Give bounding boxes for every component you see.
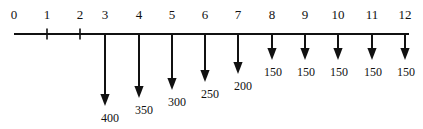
- period-label-7: 7: [235, 8, 242, 21]
- period-label-10: 10: [332, 8, 345, 21]
- period-label-11: 11: [366, 8, 379, 21]
- flow-amount-period-9: 150: [297, 66, 315, 78]
- period-label-1: 1: [44, 8, 51, 21]
- period-label-0: 0: [11, 8, 18, 21]
- flow-amount-period-12: 150: [397, 66, 415, 78]
- flow-amount-period-5: 300: [168, 96, 186, 108]
- flow-amount-period-7: 200: [234, 80, 252, 92]
- period-label-3: 3: [102, 8, 109, 21]
- flow-amount-period-11: 150: [364, 66, 382, 78]
- period-label-12: 12: [399, 8, 412, 21]
- period-label-6: 6: [202, 8, 209, 21]
- flow-amount-period-3: 400: [101, 112, 119, 124]
- flow-arrow-period-8: [267, 34, 276, 60]
- flow-amount-period-4: 350: [135, 104, 153, 116]
- flow-arrow-period-9: [300, 34, 309, 60]
- flow-arrow-period-10: [333, 34, 342, 60]
- flow-arrow-period-5: [167, 34, 176, 90]
- flow-arrow-period-4: [134, 34, 143, 98]
- flow-arrow-period-6: [200, 34, 209, 82]
- period-label-8: 8: [269, 8, 276, 21]
- cash-flow-timeline-figure: 0 1 2 3 4 5 6 7 8 9 10 11 12 400 350 300…: [0, 0, 423, 129]
- period-label-9: 9: [302, 8, 309, 21]
- period-label-2: 2: [77, 8, 84, 21]
- flow-amount-period-8: 150: [264, 66, 282, 78]
- period-label-5: 5: [169, 8, 176, 21]
- period-axis: [14, 29, 409, 40]
- flow-arrow-period-7: [233, 34, 242, 74]
- flow-arrow-period-11: [367, 34, 376, 60]
- flow-amount-period-10: 150: [330, 66, 348, 78]
- flow-amount-period-6: 250: [201, 88, 219, 100]
- period-label-4: 4: [136, 8, 143, 21]
- flow-arrow-period-3: [100, 34, 109, 106]
- timeline-canvas: [0, 0, 423, 129]
- flow-arrow-period-12: [400, 34, 409, 60]
